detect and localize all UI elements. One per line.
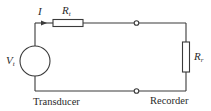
current-label: I: [37, 5, 43, 17]
recorder-caption: Recorder: [150, 95, 189, 106]
voltage-source-icon: [20, 46, 50, 76]
resistor-rr-label: Rr: [193, 50, 204, 64]
resistor-rt-label: Rt: [61, 4, 72, 18]
circuit-diagram: I Rt Vt Rr Transducer Recorder: [0, 0, 211, 111]
resistor-rr-icon: [183, 42, 190, 72]
transducer-caption: Transducer: [33, 96, 80, 107]
current-arrow-icon: [41, 21, 47, 26]
terminal-top-icon: [134, 21, 139, 26]
resistor-rt-icon: [53, 20, 83, 27]
voltage-source-label: Vt: [6, 54, 16, 68]
terminal-bottom-icon: [134, 89, 139, 94]
